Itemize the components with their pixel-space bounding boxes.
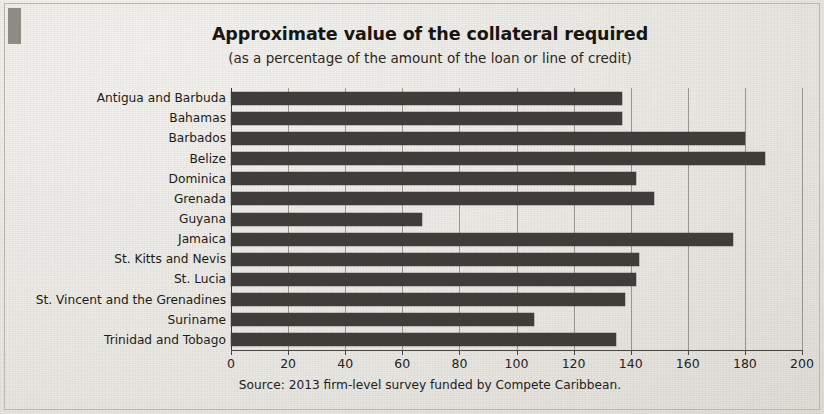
gridline-120	[574, 88, 575, 350]
bar	[231, 112, 622, 125]
x-tick-0	[231, 350, 232, 355]
y-axis-label: Dominica	[169, 173, 226, 185]
x-tick-label: 60	[394, 356, 410, 371]
x-tick-label: 40	[337, 356, 353, 371]
bar	[231, 213, 422, 226]
gridline-160	[688, 88, 689, 350]
gridline-100	[517, 88, 518, 350]
bar	[231, 333, 616, 346]
bar	[231, 192, 654, 205]
figure-border-top	[4, 3, 820, 4]
x-tick-60	[402, 350, 403, 355]
y-axis-label: Grenada	[174, 193, 226, 205]
x-tick-120	[574, 350, 575, 355]
plot-area	[231, 88, 802, 350]
x-tick-label: 100	[505, 356, 529, 371]
bar	[231, 313, 534, 326]
x-tick-80	[459, 350, 460, 355]
gridline-180	[745, 88, 746, 350]
y-axis-label: Barbados	[168, 132, 226, 144]
bar	[231, 273, 636, 286]
x-tick-label: 120	[562, 356, 586, 371]
x-tick-label: 80	[451, 356, 467, 371]
y-axis-label: Antigua and Barbuda	[97, 92, 226, 104]
y-axis-label: Jamaica	[178, 233, 226, 245]
y-axis-label: St. Lucia	[174, 273, 226, 285]
x-tick-200	[802, 350, 803, 355]
x-tick-label: 140	[619, 356, 643, 371]
gridline-80	[459, 88, 460, 350]
y-axis-label: Trinidad and Tobago	[104, 334, 226, 346]
bar	[231, 233, 733, 246]
x-tick-180	[745, 350, 746, 355]
bar	[231, 293, 625, 306]
bar	[231, 132, 745, 145]
y-axis-label: Guyana	[179, 213, 226, 225]
x-tick-160	[688, 350, 689, 355]
x-tick-40	[345, 350, 346, 355]
figure-border-bottom	[4, 409, 820, 410]
chart-subtitle: (as a percentage of the amount of the lo…	[0, 50, 824, 66]
y-axis-label: St. Kitts and Nevis	[114, 253, 226, 265]
y-axis-label: Bahamas	[169, 112, 226, 124]
y-axis-label: Suriname	[168, 314, 226, 326]
y-axis-label: St. Vincent and the Grenadines	[36, 294, 226, 306]
x-tick-label: 200	[790, 356, 814, 371]
x-tick-140	[631, 350, 632, 355]
x-tick-label: 180	[733, 356, 757, 371]
gridline-200	[802, 88, 803, 350]
chart-title: Approximate value of the collateral requ…	[0, 24, 824, 44]
source-note: Source: 2013 firm-level survey funded by…	[0, 378, 824, 392]
y-axis-category-labels: Antigua and BarbudaBahamasBarbadosBelize…	[0, 88, 226, 350]
bar	[231, 92, 622, 105]
x-tick-label: 0	[227, 356, 235, 371]
x-tick-label: 160	[676, 356, 700, 371]
bar	[231, 253, 639, 266]
bar	[231, 152, 765, 165]
bar	[231, 172, 636, 185]
x-tick-label: 20	[280, 356, 296, 371]
y-axis-label: Belize	[189, 153, 226, 165]
x-tick-100	[517, 350, 518, 355]
x-tick-20	[288, 350, 289, 355]
gridline-140	[631, 88, 632, 350]
